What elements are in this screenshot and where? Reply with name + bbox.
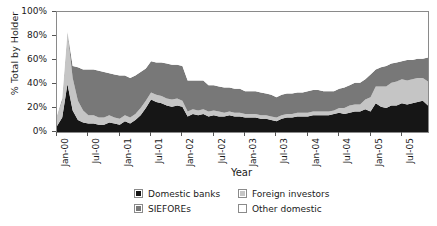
legend-label: SIEFOREs (148, 204, 191, 214)
x-tick-mark (56, 132, 57, 136)
x-tick-mark (338, 132, 339, 136)
x-tick-label: Jan-05 (374, 138, 384, 167)
y-axis-ticks: 0%20%40%60%80%100% (0, 0, 54, 140)
x-tick-mark (119, 132, 120, 136)
legend-swatch-icon (238, 204, 247, 213)
y-tick-label: 80% (27, 30, 47, 40)
x-tick-mark (275, 132, 276, 136)
x-tick-label: Jan-00 (60, 138, 70, 167)
x-tick-mark (244, 132, 245, 136)
y-tick-label: 40% (27, 78, 47, 88)
legend-entry[interactable]: Other domestic (238, 201, 358, 216)
x-tick-mark (307, 132, 308, 136)
x-tick-mark (401, 132, 402, 136)
legend-label: Other domestic (252, 204, 322, 214)
x-axis-title: Year (56, 167, 427, 178)
legend-swatch-icon (134, 189, 143, 198)
x-tick-label: Jan-02 (185, 138, 195, 167)
x-tick-mark (370, 132, 371, 136)
x-tick-label: Jul-01 (154, 138, 164, 164)
x-tick-label: Jul-00 (91, 138, 101, 164)
legend-entry[interactable]: Domestic banks (134, 186, 234, 201)
legend-label: Foreign investors (252, 189, 329, 199)
y-tick-label: 20% (27, 102, 47, 112)
x-tick-label: Jul-05 (405, 138, 415, 164)
x-tick-mark (87, 132, 88, 136)
y-tick-label: 0% (33, 126, 47, 136)
legend-entry[interactable]: SIEFOREs (134, 201, 234, 216)
x-tick-mark (150, 132, 151, 136)
legend-label: Domestic banks (148, 189, 220, 199)
x-tick-label: Jan-03 (248, 138, 258, 167)
legend-swatch-icon (134, 204, 143, 213)
x-tick-label: Jul-04 (342, 138, 352, 164)
x-tick-label: Jul-03 (279, 138, 289, 164)
legend-entry[interactable]: Foreign investors (238, 186, 358, 201)
x-tick-mark (181, 132, 182, 136)
plot-area (56, 11, 429, 133)
x-tick-label: Jan-01 (123, 138, 133, 167)
x-tick-mark (213, 132, 214, 136)
y-tick-label: 100% (21, 6, 47, 16)
legend-swatch-icon (238, 189, 247, 198)
y-tick-label: 60% (27, 54, 47, 64)
area-series-group (57, 12, 428, 132)
stacked-area-chart: % Total by Holder 0%20%40%60%80%100% Jan… (0, 0, 437, 226)
chart-legend: Domestic banksForeign investorsSIEFOREsO… (134, 186, 374, 216)
x-tick-label: Jan-04 (311, 138, 321, 167)
x-tick-label: Jul-02 (217, 138, 227, 164)
